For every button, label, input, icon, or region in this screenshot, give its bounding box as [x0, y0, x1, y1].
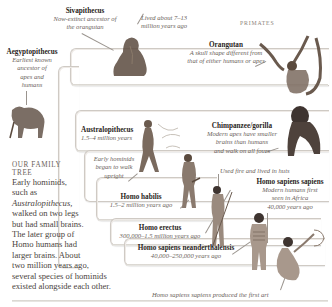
australopithecus-name: Australopithecus	[81, 126, 133, 134]
neanderthalensis-date: 40,000–250,000 years ago	[130, 252, 242, 260]
orangutan-label: Orangutan A skull shape different from t…	[172, 41, 280, 66]
hss-desc-1: Modern humans first	[248, 186, 332, 194]
orangutan-desc-1: A skull shape different from	[172, 49, 280, 57]
neanderthalensis-label: Homo sapiens neanderthalensis 40,000–250…	[130, 244, 242, 260]
lived-note-line-2: million years ago	[141, 22, 187, 30]
intro-line-11: existed alongside each other.	[12, 281, 122, 291]
sivapithecus-illustration	[110, 36, 150, 78]
orangutan-name: Orangutan	[172, 41, 280, 49]
intro-line-8: larger brains. About	[12, 250, 122, 260]
intro-line-3: Australopithecus,	[12, 198, 122, 208]
intro-line-10: several species of hominids	[12, 271, 122, 281]
neanderthalensis-illustration	[244, 212, 274, 272]
hss-date: 40,000 years ago	[248, 203, 332, 211]
intro-line-5: but had small brains.	[12, 219, 122, 229]
homo-erectus-label: Homo erectus 300,000–1.5 million years a…	[112, 224, 208, 240]
intro-line-2: such as	[12, 187, 122, 197]
australopithecus-date: 1.5–4 million years	[81, 134, 133, 142]
first-art-note: Homo sapiens sapiens produced the first …	[152, 291, 269, 299]
homo-erectus-illustration	[206, 184, 236, 250]
sivapithecus-label: Sivapithecus Now-extinct ancestor of the…	[30, 7, 140, 32]
chimpanzee-desc-2: brains than humans	[192, 138, 292, 146]
aegyptopithecus-desc-2: ancestor of	[0, 64, 64, 72]
sivapithecus-name: Sivapithecus	[30, 7, 140, 15]
homo-sapiens-sapiens-illustration	[274, 226, 328, 286]
chimpanzee-label: Chimpanzee/gorilla Modern apes have smal…	[192, 122, 292, 155]
chimpanzee-desc-3: and walk on all fours	[192, 147, 292, 155]
aegyptopithecus-desc-1: Earliest known	[0, 56, 64, 64]
homo-sapiens-sapiens-label: Homo sapiens sapiens Modern humans first…	[248, 178, 332, 211]
intro-line-7: Homo humans had	[12, 239, 122, 249]
australopithecus-label: Australopithecus 1.5–4 million years	[81, 126, 133, 142]
aegyptopithecus-label: Aegyptopithecus Earliest known ancestor …	[0, 48, 64, 89]
intro-heading-2: TREE	[12, 169, 122, 177]
hss-desc-2: seen in Africa	[248, 194, 332, 202]
lived-note-line-1: Lived about 7–13	[141, 14, 187, 22]
sivapithecus-desc-1: Now-extinct ancestor of	[30, 15, 140, 23]
aegyptopithecus-illustration	[4, 102, 48, 142]
bracket-neanderthalensis-bar	[126, 264, 254, 266]
homo-sapiens-sapiens-name: Homo sapiens sapiens	[248, 178, 332, 186]
fire-note: Used fire and lived in huts	[220, 167, 290, 175]
lived-note: Lived about 7–13 million years ago	[141, 14, 187, 31]
intro-line-1: Early hominids,	[12, 177, 122, 187]
aegyptopithecus-desc-4: humans	[0, 81, 64, 89]
orangutan-desc-2: that of either humans or apes	[172, 57, 280, 65]
primates-heading: PRIMATES	[240, 20, 274, 26]
homo-erectus-name: Homo erectus	[112, 224, 208, 232]
intro-line-6: The later group of	[12, 229, 122, 239]
intro-block: OUR FAMILY TREE Early hominids, such as …	[12, 161, 122, 291]
aegyptopithecus-name: Aegyptopithecus	[0, 48, 64, 56]
intro-line-4: walked on two legs	[12, 208, 122, 218]
neanderthalensis-name: Homo sapiens neanderthalensis	[130, 244, 242, 252]
chimpanzee-desc-1: Modern apes have smaller	[192, 130, 292, 138]
bottom-rule	[12, 300, 328, 302]
intro-line-9: two million years ago,	[12, 260, 122, 270]
chimpanzee-name: Chimpanzee/gorilla	[192, 122, 292, 130]
intro-heading-1: OUR FAMILY	[12, 161, 122, 169]
sivapithecus-desc-2: the orangutan	[30, 23, 140, 31]
homo-erectus-date: 300,000–1.5 million years ago	[112, 232, 208, 240]
aegyptopithecus-desc-3: apes and	[0, 73, 64, 81]
